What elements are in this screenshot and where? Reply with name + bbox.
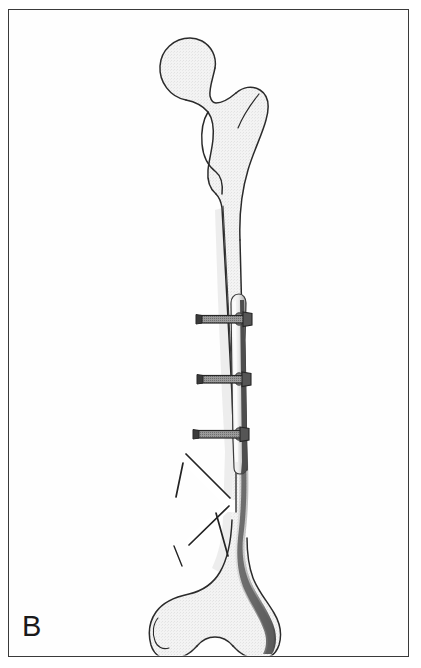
fracture-line-butterfly-upper xyxy=(176,463,183,497)
panel-label: B xyxy=(22,612,42,641)
screw-distal xyxy=(193,427,249,442)
fracture-gap-butterfly xyxy=(226,500,236,512)
fracture-line-medial-spike xyxy=(174,546,182,566)
screw-middle-shaft xyxy=(201,376,245,384)
fracture-line-proximal-oblique xyxy=(186,454,230,498)
screw-middle-head xyxy=(242,372,251,387)
femur-illustration xyxy=(0,0,421,668)
screw-proximal-tip xyxy=(196,315,202,325)
screw-distal-tip xyxy=(193,430,199,440)
screw-distal-shaft xyxy=(197,431,243,439)
figure-panel: B Line drawing of a left femur, anterior… xyxy=(0,0,421,668)
screw-proximal-shaft xyxy=(200,316,246,324)
screw-proximal-head xyxy=(243,312,252,327)
screw-middle-tip xyxy=(197,375,203,385)
screw-distal-head xyxy=(240,427,249,442)
